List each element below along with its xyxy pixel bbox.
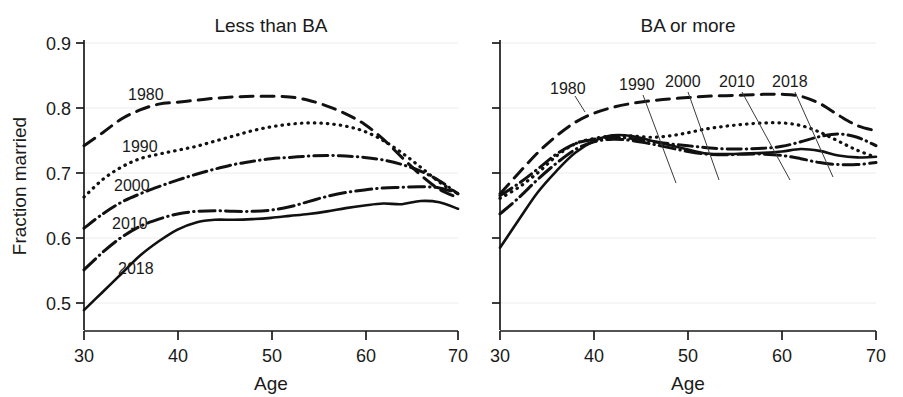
- married-by-age-chart: Less than BA 0.9 0.8 0.7 0.6 0.5: [0, 0, 903, 397]
- series-label-2000-left: 2000: [114, 177, 150, 194]
- x-tick-70-right: 70: [866, 346, 886, 366]
- y-tick-0_8: 0.8: [46, 99, 71, 119]
- y-axis-label: Fraction married: [9, 117, 30, 255]
- right-x-axis-label: Age: [671, 373, 705, 394]
- y-tick-0_6: 0.6: [46, 229, 71, 249]
- series-label-2010-right: 2010: [719, 73, 755, 90]
- series-label-2010-left: 2010: [112, 215, 148, 232]
- panel-title-less-than-ba: Less than BA: [214, 15, 327, 36]
- y-tick-0_9: 0.9: [46, 34, 71, 54]
- series-label-1980-left: 1980: [128, 86, 164, 103]
- series-label-1990-left: 1990: [122, 138, 158, 155]
- x-tick-30: 30: [74, 346, 94, 366]
- x-tick-40-right: 40: [584, 346, 604, 366]
- series-label-1990-right: 1990: [619, 76, 655, 93]
- series-label-1980-right: 1980: [550, 80, 586, 97]
- x-tick-60-right: 60: [772, 346, 792, 366]
- panel-title-ba-or-more: BA or more: [640, 15, 735, 36]
- y-tick-0_5: 0.5: [46, 294, 71, 314]
- series-label-2018-left: 2018: [118, 260, 154, 277]
- x-tick-40: 40: [168, 346, 188, 366]
- x-tick-60: 60: [356, 346, 376, 366]
- series-label-2000-right: 2000: [665, 73, 701, 90]
- figure-container: Less than BA 0.9 0.8 0.7 0.6 0.5: [0, 0, 903, 397]
- x-tick-50-right: 50: [678, 346, 698, 366]
- x-tick-70: 70: [448, 346, 468, 366]
- series-label-2018-right: 2018: [772, 73, 808, 90]
- chart-background: [0, 0, 903, 397]
- x-tick-50: 50: [262, 346, 282, 366]
- left-x-axis-label: Age: [254, 373, 288, 394]
- y-tick-0_7: 0.7: [46, 164, 71, 184]
- x-tick-30-right: 30: [490, 346, 510, 366]
